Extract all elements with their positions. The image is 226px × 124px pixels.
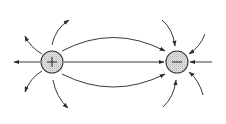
field-line-lower-left-in [163, 80, 176, 107]
field-line-upper-right-out [52, 20, 69, 45]
field-line-center-lower-arc [62, 74, 165, 87]
field-line-upper-right-in [189, 34, 205, 54]
field-line-center-upper-arc [62, 38, 165, 52]
field-line-upper-left-out [25, 36, 42, 54]
connecting-lines [62, 38, 165, 88]
field-line-lower-right-in [189, 72, 203, 95]
field-line-lower-left-out [25, 71, 42, 92]
negative-charge [166, 51, 188, 73]
positive-charge [41, 51, 63, 73]
field-line-lower-right-out [53, 80, 68, 108]
field-line-upper-left-in [162, 20, 175, 46]
dipole-field-diagram [0, 0, 226, 124]
